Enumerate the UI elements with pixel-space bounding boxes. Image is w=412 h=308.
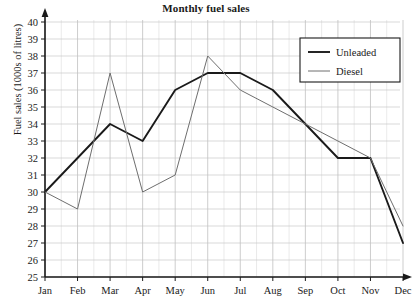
- y-tick-label: 34: [28, 119, 39, 130]
- chart-container: Monthly fuel sales Fuel sales (1000s of …: [0, 0, 412, 308]
- x-tick-labels: JanFebMarAprMayJunJulAugSepOctNovDec: [38, 285, 412, 296]
- y-tick-label: 25: [28, 272, 39, 283]
- y-tick-label: 36: [28, 85, 39, 96]
- y-tick-label: 38: [28, 51, 39, 62]
- y-tick-label: 29: [28, 204, 39, 215]
- x-tick-label: Jul: [234, 285, 246, 296]
- x-tick-label: Oct: [330, 285, 345, 296]
- legend-label-unleaded: Unleaded: [336, 47, 377, 58]
- y-tick-labels: 25262728293031323334353637383940: [28, 17, 39, 283]
- y-tick-label: 26: [28, 255, 39, 266]
- legend-label-diesel: Diesel: [336, 66, 363, 77]
- x-tick-label: Mar: [101, 285, 119, 296]
- y-tick-label: 40: [28, 17, 39, 28]
- plot-area: 25262728293031323334353637383940 JanFebM…: [0, 0, 412, 308]
- x-tick-label: Aug: [264, 285, 283, 296]
- x-tick-label: Sep: [297, 285, 313, 296]
- x-tick-label: May: [166, 285, 186, 296]
- y-tick-label: 39: [28, 34, 39, 45]
- y-tick-label: 32: [28, 153, 39, 164]
- y-tick-label: 28: [28, 221, 39, 232]
- x-tick-label: Nov: [361, 285, 380, 296]
- y-tick-label: 33: [28, 136, 39, 147]
- y-tick-label: 35: [28, 102, 39, 113]
- y-tick-label: 31: [28, 170, 39, 181]
- x-tick-label: Jan: [38, 285, 53, 296]
- y-tick-label: 37: [28, 68, 39, 79]
- x-tick-label: Jun: [200, 285, 215, 296]
- x-tick-label: Dec: [395, 285, 412, 296]
- y-tick-label: 27: [28, 238, 39, 249]
- chart-legend: UnleadedDiesel: [300, 38, 400, 82]
- x-tick-label: Feb: [70, 285, 86, 296]
- x-tick-label: Apr: [134, 285, 151, 296]
- y-tick-label: 30: [28, 187, 39, 198]
